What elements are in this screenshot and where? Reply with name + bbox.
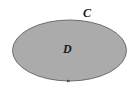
boundary-label-c: C [83, 6, 92, 20]
diagram-canvas: C D [0, 0, 134, 86]
region-diagram: C D [0, 0, 134, 86]
region-label-d: D [62, 42, 72, 56]
